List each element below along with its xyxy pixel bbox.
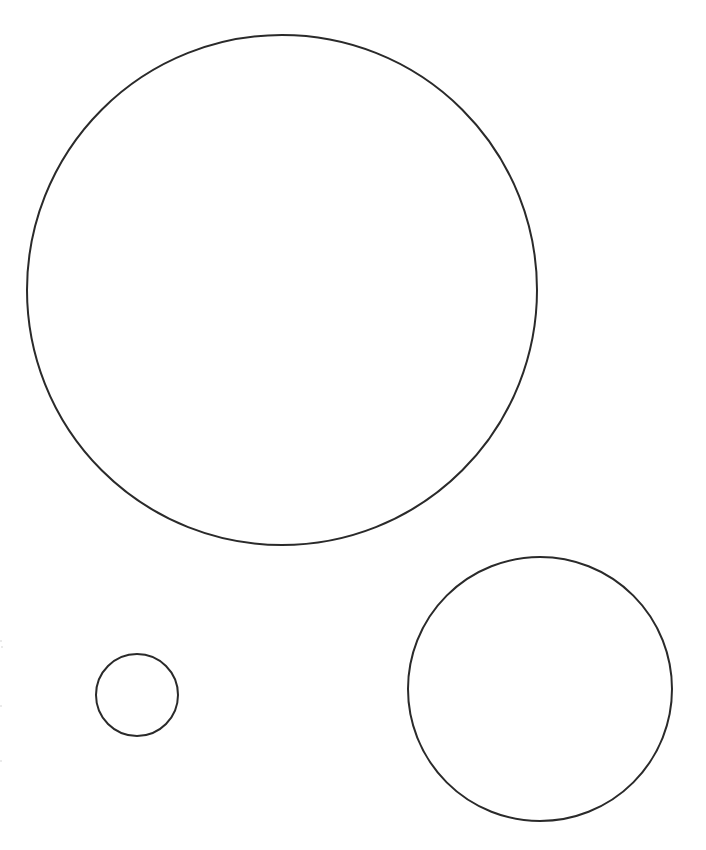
figure-canvas: Three outlined circles on a white page bbox=[0, 0, 706, 850]
edge-speck-3 bbox=[0, 705, 2, 707]
edge-speck-1 bbox=[0, 640, 2, 642]
edge-speck-2 bbox=[1, 646, 3, 648]
edge-speck-4 bbox=[0, 760, 2, 762]
circles-figure bbox=[0, 0, 706, 850]
